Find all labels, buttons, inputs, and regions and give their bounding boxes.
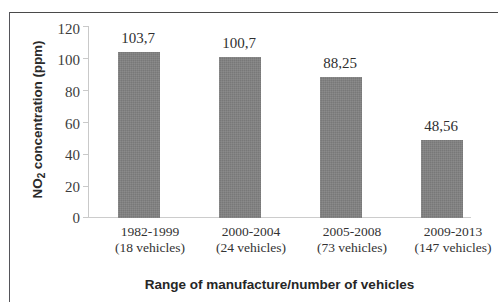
x-tick-label-2-count: (24 vehicles) <box>197 240 305 256</box>
x-tick-label-1: 1982-1999 (18 vehicles) <box>96 224 204 257</box>
y-tick-label-0: 0 <box>34 211 80 226</box>
x-tick-label-2-range: 2000-2004 <box>197 224 305 240</box>
bar-value-label-1: 103,7 <box>116 31 160 46</box>
bar-group-1: 103,7 <box>116 26 160 218</box>
bar-value-label-2: 100,7 <box>217 36 261 51</box>
plot-area: 103,7 100,7 88,25 48,56 <box>88 26 471 218</box>
y-tick-label-120: 120 <box>34 22 80 37</box>
x-tick-label-4-count: (147 vehicles) <box>397 240 498 256</box>
x-tick-label-3: 2005-2008 (73 vehicles) <box>298 224 406 257</box>
y-tick-label-20: 20 <box>34 180 80 195</box>
bar-value-label-3: 88,25 <box>318 56 362 71</box>
page-frame-top-rule <box>9 12 498 13</box>
bar-3[interactable] <box>320 77 362 218</box>
bar-2[interactable] <box>219 57 261 218</box>
x-tick-label-4: 2009-2013 (147 vehicles) <box>397 224 498 257</box>
bar-4[interactable] <box>421 140 463 218</box>
y-tick-label-80: 80 <box>34 85 80 100</box>
bar-chart-figure: NO2 concentration (ppm) 120 100 80 60 40… <box>0 0 498 305</box>
bar-1[interactable] <box>118 52 160 218</box>
bar-group-3: 88,25 <box>318 26 362 218</box>
y-tick-label-40: 40 <box>34 148 80 163</box>
x-tick-label-3-range: 2005-2008 <box>298 224 406 240</box>
y-axis-tick-labels: 120 100 80 60 40 20 0 <box>30 0 80 305</box>
x-tick-label-3-count: (73 vehicles) <box>298 240 406 256</box>
page-frame-left-rule <box>9 12 10 302</box>
bar-value-label-4: 48,56 <box>419 119 463 134</box>
x-tick-label-2: 2000-2004 (24 vehicles) <box>197 224 305 257</box>
bar-group-4: 48,56 <box>419 26 463 218</box>
x-tick-label-4-range: 2009-2013 <box>397 224 498 240</box>
y-tick-label-60: 60 <box>34 117 80 132</box>
bar-group-2: 100,7 <box>217 26 261 218</box>
x-tick-label-1-range: 1982-1999 <box>96 224 204 240</box>
y-tick-label-100: 100 <box>34 53 80 68</box>
x-tick-label-1-count: (18 vehicles) <box>96 240 204 256</box>
x-axis-title: Range of manufacture/number of vehicles <box>88 277 471 292</box>
